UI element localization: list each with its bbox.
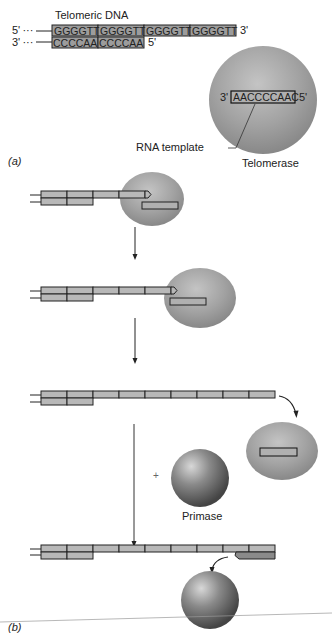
bottom-repeat-2: CCCCAA (99, 37, 145, 49)
primase-label: Primase (182, 510, 222, 522)
rna-template-sequence: AACCCCAAC (233, 91, 299, 103)
template-3prime: 3' (220, 91, 228, 103)
template-5prime: 5' (299, 91, 307, 103)
bottom-strand-5prime: 5' (148, 36, 156, 48)
top-strand-3prime: 3' (240, 24, 248, 36)
telomerase-label: Telomerase (242, 157, 299, 169)
panel-b-label: (b) (8, 621, 21, 633)
rna-template-label: RNA template (136, 141, 204, 153)
step-4 (30, 545, 275, 629)
rna-template (142, 202, 178, 209)
bottom-repeat-1: CCCCAA (53, 37, 99, 49)
primase-enzyme (181, 571, 239, 629)
bottom-strand-3prime: 3' ··· (12, 36, 33, 48)
step-2 (30, 268, 236, 328)
primase-enzyme (171, 449, 229, 507)
top-repeat-4: GGGGTT (192, 25, 238, 37)
step-1 (30, 172, 184, 226)
rna-template (260, 448, 297, 456)
top-strand-5prime: 5' ··· (12, 24, 33, 36)
panel-a-label: (a) (8, 155, 21, 167)
top-repeat-2: GGGGTT (100, 25, 146, 37)
telomerase-enzyme (120, 172, 184, 226)
top-repeat-1: GGGGTT (54, 25, 100, 37)
rna-template (170, 298, 206, 305)
plus-sign: + (153, 470, 159, 481)
telomeric-dna-title: Telomeric DNA (55, 9, 128, 21)
primase-leave-arrow (212, 557, 228, 570)
page-edge (0, 613, 332, 622)
rna-primer (235, 552, 275, 559)
release-arrow (279, 396, 296, 414)
